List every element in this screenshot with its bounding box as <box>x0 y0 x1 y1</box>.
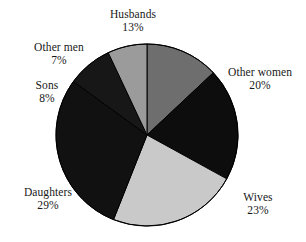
pie-label-sons-name: Sons <box>12 79 82 92</box>
pie-label-daughters-percent: 29% <box>2 199 94 212</box>
pie-label-wives: Wives 23% <box>222 191 294 217</box>
pie-label-other-men: Other men 7% <box>14 41 104 67</box>
pie-label-other-women: Other women 20% <box>214 66 306 92</box>
pie-label-daughters: Daughters 29% <box>2 186 94 212</box>
pie-label-sons: Sons 8% <box>12 79 82 105</box>
pie-label-wives-name: Wives <box>222 191 294 204</box>
pie-chart-figure: Husbands 13% Other men 7% Sons 8% Daught… <box>0 0 306 242</box>
pie-label-sons-percent: 8% <box>12 92 82 105</box>
pie-label-husbands-name: Husbands <box>86 8 180 21</box>
pie-label-other-women-percent: 20% <box>214 79 306 92</box>
pie-label-daughters-name: Daughters <box>2 186 94 199</box>
pie-label-husbands-percent: 13% <box>86 21 180 34</box>
pie-label-other-men-name: Other men <box>14 41 104 54</box>
pie-label-other-men-percent: 7% <box>14 54 104 67</box>
pie-label-wives-percent: 23% <box>222 204 294 217</box>
pie-label-other-women-name: Other women <box>214 66 306 79</box>
pie-label-husbands: Husbands 13% <box>86 8 180 34</box>
